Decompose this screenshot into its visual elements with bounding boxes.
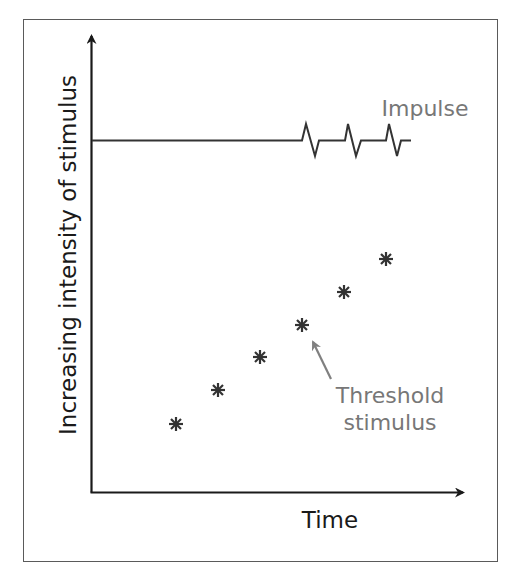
impulse-line: [92, 124, 411, 156]
threshold-diagram: Increasing intensity of stimulus Time Im…: [0, 0, 509, 569]
stimulus-marker-3: [253, 350, 267, 364]
y-axis-label: Increasing intensity of stimulus: [55, 75, 81, 435]
x-axis-label: Time: [301, 507, 358, 533]
impulse-label: Impulse: [382, 96, 469, 121]
stimulus-marker-5: [337, 285, 351, 299]
stimulus-marker-4-threshold: [295, 318, 309, 332]
stimulus-marker-6: [379, 252, 393, 266]
threshold-label-line2: stimulus: [343, 410, 436, 435]
threshold-label-line1: Threshold: [335, 383, 444, 408]
threshold-arrow: [313, 342, 331, 379]
stimulus-marker-2: [211, 383, 225, 397]
stimulus-marker-1: [169, 417, 183, 431]
